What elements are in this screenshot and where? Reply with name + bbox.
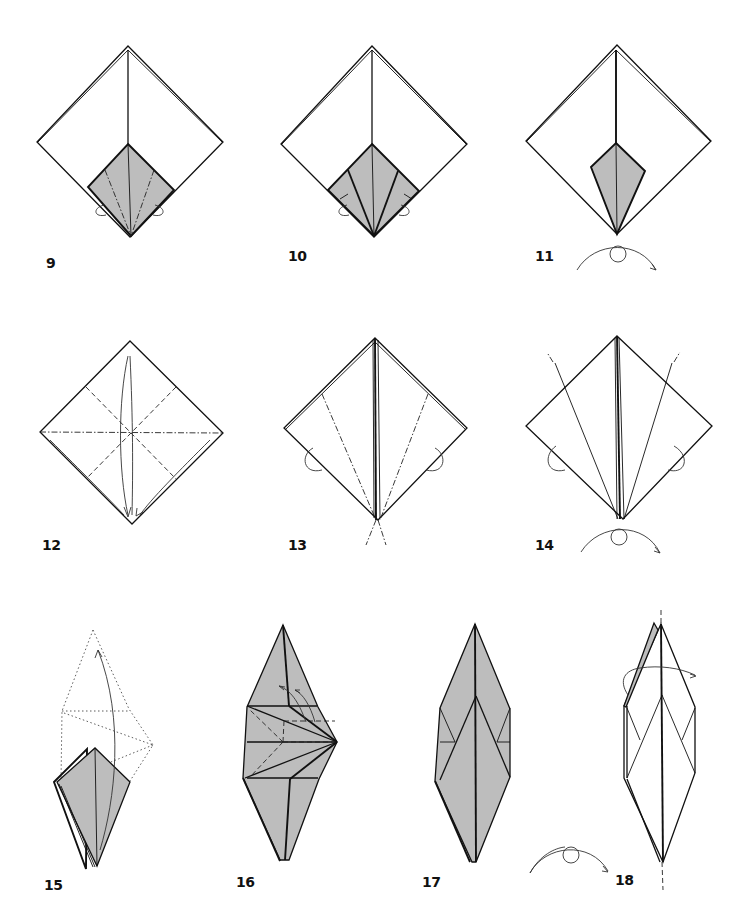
fold-arrow <box>140 440 210 515</box>
diagram-step-12 <box>40 341 223 524</box>
diagram-step-9 <box>37 46 223 237</box>
turn-over-icon <box>577 246 656 270</box>
diagram-step-10 <box>281 46 467 237</box>
diagram-step-11 <box>526 45 711 270</box>
fold-arrow <box>121 356 129 515</box>
diagrams-canvas <box>0 0 752 923</box>
turn-over-icon <box>581 529 660 553</box>
fold-arrow <box>130 356 133 515</box>
diagram-step-18 <box>530 610 696 890</box>
diagram-step-13 <box>284 338 467 545</box>
origami-instruction-page: 9 10 11 12 13 14 15 16 17 18 <box>0 0 752 923</box>
diagram-step-16 <box>243 625 337 861</box>
turn-over-icon <box>530 847 608 873</box>
diagram-step-14 <box>526 336 712 553</box>
diagram-step-15 <box>54 630 153 869</box>
diagram-step-17 <box>435 624 565 873</box>
